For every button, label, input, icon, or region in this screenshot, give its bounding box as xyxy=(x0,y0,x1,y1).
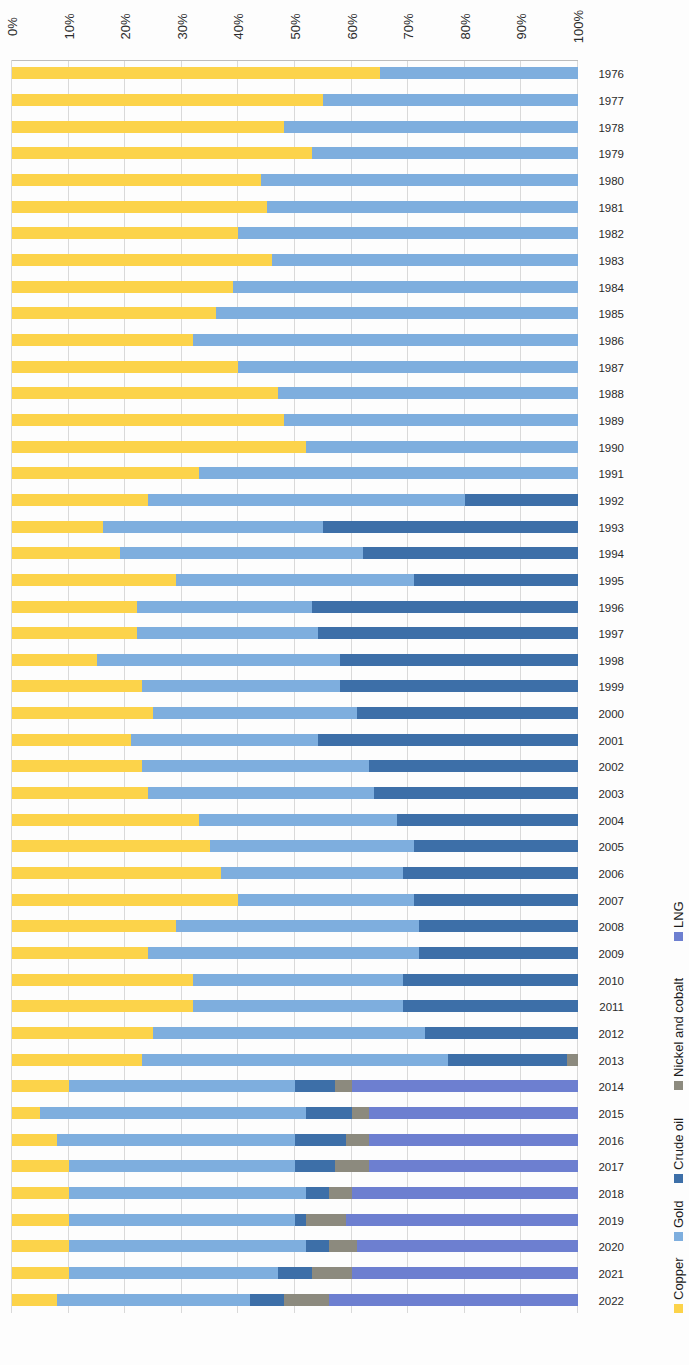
bar-segment xyxy=(380,67,578,79)
bar-segment xyxy=(137,627,318,639)
category-label: 1998 xyxy=(584,655,624,667)
category-label: 1986 xyxy=(584,335,624,347)
bar-segment xyxy=(12,414,284,426)
bar-segment xyxy=(295,1214,306,1226)
bar-segment xyxy=(12,867,221,879)
bar-segment xyxy=(403,1000,578,1012)
bar-segment xyxy=(295,1160,335,1172)
plot-area: 1976197719781979198019811982198319841985… xyxy=(12,60,578,1313)
category-label: 1988 xyxy=(584,388,624,400)
bar-segment xyxy=(12,787,148,799)
bar-segment xyxy=(12,94,323,106)
category-label: 1978 xyxy=(584,122,624,134)
category-label: 2016 xyxy=(584,1135,624,1147)
bar-segment xyxy=(12,1054,142,1066)
legend-swatch xyxy=(674,1304,683,1313)
category-label: 2014 xyxy=(584,1081,624,1093)
category-label: 2001 xyxy=(584,735,624,747)
bar-segment xyxy=(12,681,142,693)
category-label: 2010 xyxy=(584,975,624,987)
legend-label: Copper xyxy=(671,1257,686,1300)
bar-segment xyxy=(57,1294,249,1306)
bar-segment xyxy=(12,974,193,986)
bar-segment xyxy=(425,1027,578,1039)
bar-segment xyxy=(374,787,578,799)
bar-segment xyxy=(142,760,368,772)
bar-segment xyxy=(193,1000,402,1012)
bar-row xyxy=(12,441,578,453)
bar-segment xyxy=(69,1080,295,1092)
legend-item[interactable]: Copper xyxy=(671,1257,686,1313)
bar-row xyxy=(12,840,578,852)
category-label: 1977 xyxy=(584,95,624,107)
bar-row xyxy=(12,947,578,959)
bar-segment xyxy=(12,521,103,533)
bar-segment xyxy=(210,840,414,852)
bar-segment xyxy=(414,894,578,906)
bar-segment xyxy=(340,654,578,666)
bar-segment xyxy=(12,201,267,213)
category-label: 2015 xyxy=(584,1108,624,1120)
bar-row xyxy=(12,1107,578,1119)
bar-segment xyxy=(323,94,578,106)
bar-segment xyxy=(193,334,578,346)
bar-segment xyxy=(154,707,358,719)
bar-segment xyxy=(12,947,148,959)
bar-segment xyxy=(103,521,324,533)
legend-swatch xyxy=(674,1174,683,1183)
bar-row xyxy=(12,867,578,879)
bar-segment xyxy=(12,601,137,613)
bar-segment xyxy=(12,174,261,186)
value-axis-tick-label: 20% xyxy=(118,7,133,47)
bar-row xyxy=(12,121,578,133)
bar-row xyxy=(12,201,578,213)
bar-segment xyxy=(12,814,199,826)
bar-row xyxy=(12,361,578,373)
bar-row xyxy=(12,307,578,319)
category-label: 2007 xyxy=(584,895,624,907)
value-axis-tick-label: 10% xyxy=(61,7,76,47)
bar-segment xyxy=(284,414,578,426)
bar-segment xyxy=(306,1107,351,1119)
value-axis-tick-label: 0% xyxy=(5,7,20,47)
bar-segment xyxy=(69,1214,295,1226)
category-label: 2020 xyxy=(584,1241,624,1253)
bar-row xyxy=(12,574,578,586)
legend-item[interactable]: Nickel and cobalt xyxy=(671,978,686,1090)
bar-segment xyxy=(352,1107,369,1119)
bar-row xyxy=(12,1000,578,1012)
bar-segment xyxy=(357,707,578,719)
category-label: 1979 xyxy=(584,148,624,160)
value-axis-tick-label: 60% xyxy=(344,7,359,47)
bar-row xyxy=(12,227,578,239)
legend-item[interactable]: Crude oil xyxy=(671,1118,686,1183)
category-label: 1992 xyxy=(584,495,624,507)
bar-segment xyxy=(448,1054,567,1066)
category-label: 2017 xyxy=(584,1161,624,1173)
bar-segment xyxy=(335,1080,352,1092)
bar-segment xyxy=(97,654,340,666)
category-label: 2022 xyxy=(584,1295,624,1307)
bar-segment xyxy=(233,281,578,293)
bar-row xyxy=(12,281,578,293)
legend-item[interactable]: LNG xyxy=(671,901,686,941)
bar-segment xyxy=(12,441,306,453)
bar-segment xyxy=(329,1240,357,1252)
category-label: 1976 xyxy=(584,68,624,80)
bar-segment xyxy=(363,547,578,559)
bar-segment xyxy=(12,1027,154,1039)
bar-row xyxy=(12,1214,578,1226)
bar-row xyxy=(12,814,578,826)
bar-row xyxy=(12,1294,578,1306)
bar-segment xyxy=(154,1027,426,1039)
category-label: 2008 xyxy=(584,921,624,933)
bar-row xyxy=(12,254,578,266)
bar-row xyxy=(12,601,578,613)
bar-row xyxy=(12,1054,578,1066)
bar-segment xyxy=(312,601,578,613)
bar-segment xyxy=(352,1187,578,1199)
legend-item[interactable]: Gold xyxy=(671,1201,686,1241)
bar-segment xyxy=(329,1187,352,1199)
bar-segment xyxy=(148,494,465,506)
bar-segment xyxy=(12,1160,69,1172)
